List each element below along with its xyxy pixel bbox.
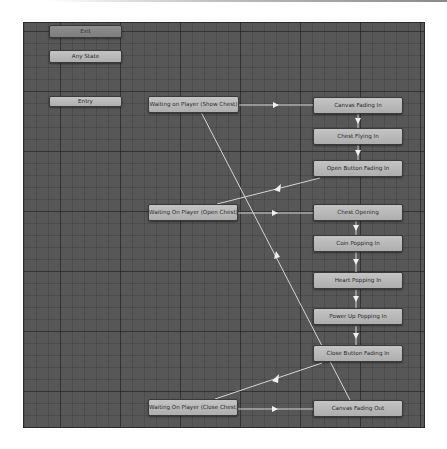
state-coin-popping-in[interactable]: Coin Popping In <box>313 235 403 252</box>
state-canvas-fading-out[interactable]: Canvas Fading Out <box>313 400 403 417</box>
state-waiting-close-chest[interactable]: Waiting On Player (Close Chest) <box>148 399 238 416</box>
state-canvas-fading-in[interactable]: Canvas Fading In <box>313 97 403 114</box>
state-entry[interactable]: Entry <box>49 96 122 107</box>
state-heart-popping-in[interactable]: Heart Popping In <box>313 272 403 289</box>
state-close-button-fading-in[interactable]: Close Button Fading In <box>313 345 403 362</box>
state-waiting-open-chest[interactable]: Waiting On Player (Open Chest) <box>148 204 238 221</box>
state-chest-opening[interactable]: Chest Opening <box>313 204 403 221</box>
screenshot-top-edge <box>0 0 447 2</box>
state-open-button-fading-in[interactable]: Open Button Fading In <box>313 160 403 177</box>
state-waiting-show-chest[interactable]: Waiting on Player (Show Chest) <box>148 96 239 113</box>
animator-graph-canvas[interactable] <box>23 22 425 428</box>
state-exit[interactable]: Exit <box>49 25 122 38</box>
state-chest-flying-in[interactable]: Chest Flying In <box>313 128 403 145</box>
state-any-state[interactable]: Any State <box>49 50 122 63</box>
state-power-up-popping-in[interactable]: Power Up Popping In <box>313 308 403 325</box>
